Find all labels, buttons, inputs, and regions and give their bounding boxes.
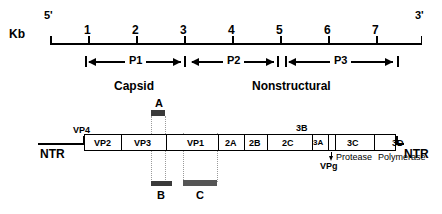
p3-label: P3 xyxy=(330,55,351,66)
left-ntr-line xyxy=(38,143,84,145)
p3-start-cap xyxy=(285,56,287,67)
p1-start-cap xyxy=(85,56,87,67)
segment-label-vp1: VP1 xyxy=(187,138,204,148)
p1-arrowhead-left xyxy=(88,58,96,66)
segment-label-vp2: VP2 xyxy=(94,138,111,148)
axis-tick-label-1: 1 xyxy=(84,24,91,36)
segment-3b xyxy=(329,135,336,150)
axis-end-tick-left xyxy=(50,36,52,44)
p3-arrowhead-left xyxy=(288,58,296,66)
axis-tick-label-7: 7 xyxy=(372,24,379,36)
p2-arrowhead-right xyxy=(266,58,274,66)
probe-bar-b xyxy=(151,181,172,186)
axis-tick-2 xyxy=(136,36,138,44)
axis-end-tick-right xyxy=(421,36,423,44)
three-prime-label: 3' xyxy=(415,10,424,21)
genome-organization-figure: Kb 5' 3' 1 2 3 4 5 6 7 P1 P2 P3 Capsid N… xyxy=(0,0,442,214)
segment-label-2a: 2A xyxy=(225,138,237,148)
axis-tick-4 xyxy=(232,36,234,44)
axis-tick-5 xyxy=(280,36,282,44)
region-label-nonstructural: Nonstructural xyxy=(252,80,331,92)
function-label-polymerase: Polymerase xyxy=(378,153,426,162)
five-prime-label: 5' xyxy=(44,10,53,21)
axis-tick-7 xyxy=(376,36,378,44)
probe-label-b: B xyxy=(157,190,165,201)
probe-label-a: A xyxy=(155,98,163,109)
p1-arrowhead-right xyxy=(173,58,181,66)
axis-tick-1 xyxy=(88,36,90,44)
p2-end-cap xyxy=(277,56,279,67)
function-label-protease: Protease xyxy=(336,153,372,162)
p1-label: P1 xyxy=(125,55,146,66)
segment-label-2c: 2C xyxy=(282,138,294,148)
axis-tick-label-4: 4 xyxy=(228,24,235,36)
vpg-label: VPg xyxy=(320,162,338,171)
axis-tick-3 xyxy=(184,36,186,44)
probe-bar-c xyxy=(183,180,217,186)
segment-label-vp3: VP3 xyxy=(134,138,151,148)
probe-bar-a xyxy=(151,110,165,116)
three-b-label: 3B xyxy=(296,124,308,133)
axis-baseline xyxy=(50,43,422,45)
axis-tick-6 xyxy=(328,36,330,44)
segment-label-3a: 3A xyxy=(313,138,323,147)
axis-tick-label-2: 2 xyxy=(132,24,139,36)
axis-tick-label-3: 3 xyxy=(180,24,187,36)
p2-arrowhead-left xyxy=(191,58,199,66)
axis-unit-label: Kb xyxy=(9,28,25,40)
left-ntr-label: NTR xyxy=(40,148,65,160)
axis-tick-label-6: 6 xyxy=(324,24,331,36)
segment-label-2b: 2B xyxy=(249,138,261,148)
p3-end-cap xyxy=(397,56,399,67)
probe-label-c: C xyxy=(196,190,204,201)
p3-arrowhead-right xyxy=(385,58,393,66)
right-ntr-line xyxy=(396,143,404,145)
p2-label: P2 xyxy=(223,55,244,66)
axis-tick-label-5: 5 xyxy=(276,24,283,36)
p1-end-cap xyxy=(184,56,186,67)
region-label-capsid: Capsid xyxy=(114,80,154,92)
segment-label-3c: 3C xyxy=(347,138,359,148)
